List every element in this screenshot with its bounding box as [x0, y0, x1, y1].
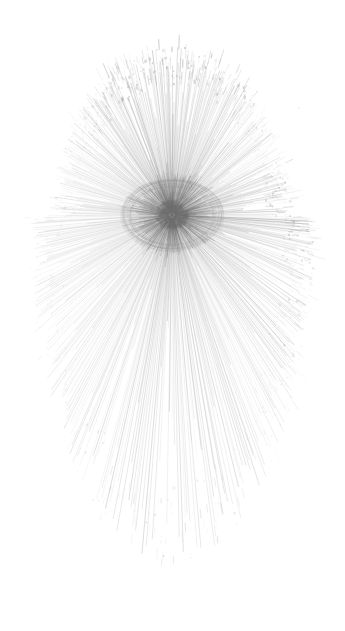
speck-upper-right: [298, 107, 299, 108]
artwork-canvas: [0, 0, 345, 631]
speck-above-crown: [184, 47, 186, 49]
radial-eye-drawing: [0, 0, 345, 631]
speck-left-edge: [43, 261, 44, 262]
